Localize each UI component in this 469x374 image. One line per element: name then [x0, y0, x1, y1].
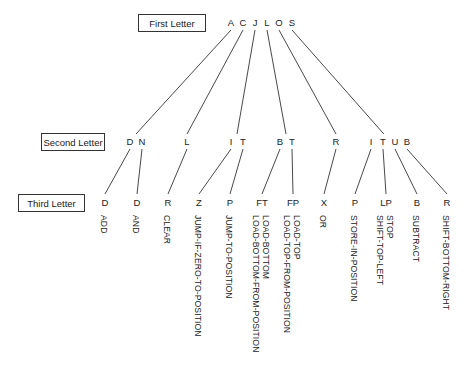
second-letter-node: B [274, 136, 286, 147]
third-letter-node: Z [193, 197, 205, 208]
instruction-name: JUMP-TO-POSITION [224, 215, 234, 299]
first-letter-node: J [249, 17, 261, 28]
tree-edge [105, 149, 130, 194]
third-letter-label: Third Letter [18, 194, 85, 212]
first-letter-node: C [237, 17, 249, 28]
instruction-name: SHIFT-BOTTOM-RIGHT [441, 215, 451, 310]
tree-edge [267, 30, 286, 134]
third-letter-node: P [224, 197, 236, 208]
third-letter-node: LP [377, 197, 395, 208]
third-letter-node: D [131, 197, 143, 208]
instruction-name: ADD [99, 215, 109, 233]
second-letter-node: T [377, 136, 389, 147]
instruction-name: LOAD-BOTTOM-FROM-POSITION [251, 215, 261, 352]
third-letter-node: X [318, 197, 330, 208]
second-letter-node: L [181, 136, 193, 147]
tree-edge [383, 149, 386, 194]
first-letter-label: First Letter [138, 14, 206, 32]
tree-edge [168, 149, 187, 194]
second-letter-node: D [124, 136, 136, 147]
instruction-name: LOAD-TOP-FROM-POSITION [282, 215, 292, 333]
instruction-name: LOAD-BOTTOM [261, 215, 271, 279]
tree-edge [324, 149, 336, 194]
tree-edge [407, 149, 447, 194]
second-letter-node: B [401, 136, 413, 147]
second-letter-node: I [365, 136, 377, 147]
tree-edge [199, 149, 231, 194]
instruction-name: LOAD-TOP [292, 215, 302, 260]
first-letter-node: O [273, 17, 285, 28]
letter-tree-diagram: First Letter Second Letter Third Letter … [0, 0, 469, 374]
second-letter-node: N [136, 136, 148, 147]
first-letter-node: L [261, 17, 273, 28]
third-letter-node: P [349, 197, 361, 208]
instruction-name: OR [318, 215, 328, 228]
tree-edge [230, 149, 243, 194]
tree-edge [292, 30, 384, 134]
instruction-name: STORE-IN-POSITION [349, 215, 359, 302]
tree-edge [137, 149, 142, 194]
third-letter-node: R [162, 197, 174, 208]
second-letter-node: I [225, 136, 237, 147]
instruction-name: STOP [385, 215, 395, 239]
first-letter-node: S [286, 17, 298, 28]
tree-edge [355, 149, 371, 194]
second-letter-node: R [330, 136, 342, 147]
third-letter-node: B [411, 197, 423, 208]
second-letter-node: U [389, 136, 401, 147]
third-letter-node: FP [284, 197, 302, 208]
third-letter-node: FT [253, 197, 271, 208]
instruction-name: CLEAR [162, 215, 172, 244]
second-letter-node: T [286, 136, 298, 147]
tree-edge [136, 30, 231, 134]
instruction-name: SHIFT-TOP-LEFT [375, 215, 385, 285]
instruction-name: SUBTRACT [411, 215, 421, 262]
third-letter-node: D [99, 197, 111, 208]
first-letter-node: A [225, 17, 237, 28]
tree-edge [187, 30, 243, 134]
tree-edge [262, 149, 280, 194]
instruction-name: JUMP-IF-ZERO-TO-POSITION [193, 215, 203, 337]
tree-edge [292, 149, 293, 194]
second-letter-node: T [237, 136, 249, 147]
tree-edge [395, 149, 417, 194]
tree-edge [279, 30, 336, 134]
third-letter-node: R [441, 197, 453, 208]
tree-edge [237, 30, 255, 134]
tree-edges [0, 0, 469, 374]
second-letter-label: Second Letter [41, 133, 105, 151]
instruction-name: AND [131, 215, 141, 233]
